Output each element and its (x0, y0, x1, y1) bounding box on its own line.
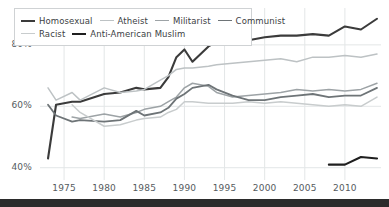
legend-item[interactable]: Communist (218, 16, 286, 26)
y-axis-tick-label: 60% (0, 100, 32, 110)
legend-row: HomosexualAtheistMilitaristCommunist (21, 14, 244, 27)
legend-row: RacistAnti-American Muslim (21, 27, 244, 40)
x-axis-tick-label: 1995 (205, 183, 245, 193)
x-axis-tick-label: 1975 (44, 183, 84, 193)
legend-label: Militarist (173, 16, 211, 26)
legend-swatch-icon (21, 20, 35, 22)
x-axis-tick-label: 2005 (285, 183, 325, 193)
x-axis-tick-label: 2000 (245, 183, 285, 193)
legend-item[interactable]: Racist (21, 29, 65, 39)
legend-item[interactable]: Homosexual (21, 16, 93, 26)
legend-label: Atheist (118, 16, 148, 26)
bottom-band (0, 199, 389, 207)
legend-item[interactable]: Anti-American Muslim (72, 29, 185, 39)
y-axis-tick-label: 40% (0, 162, 32, 172)
series-line-anti-american-muslim (329, 157, 377, 165)
legend-swatch-icon (100, 20, 114, 21)
x-axis-tick-label: 2010 (325, 183, 365, 193)
series-line-atheist (48, 54, 377, 100)
x-axis-tick-label: 1985 (124, 183, 164, 193)
x-axis-tick-label: 1980 (84, 183, 124, 193)
legend-swatch-icon (155, 20, 169, 21)
legend-label: Anti-American Muslim (90, 29, 185, 39)
legend-swatch-icon (21, 33, 35, 34)
chart-root: 40%60%80% 197519801985199019952000200520… (0, 0, 389, 207)
legend-item[interactable]: Atheist (100, 16, 148, 26)
chart-legend: HomosexualAtheistMilitaristCommunistRaci… (14, 8, 252, 46)
legend-swatch-icon (218, 20, 232, 21)
legend-swatch-icon (72, 33, 86, 35)
legend-label: Communist (236, 16, 286, 26)
legend-label: Homosexual (39, 16, 93, 26)
x-axis-tick-label: 1990 (164, 183, 204, 193)
legend-label: Racist (39, 29, 65, 39)
legend-item[interactable]: Militarist (155, 16, 211, 26)
